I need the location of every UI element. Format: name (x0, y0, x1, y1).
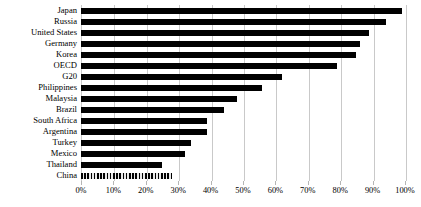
category-label: Brazil (0, 105, 77, 114)
value-axis-tick-label: 90% (365, 186, 380, 196)
category-label: Malaysia (0, 94, 77, 103)
bar (81, 19, 386, 25)
gridline (406, 5, 407, 181)
value-axis-tick-label: 20% (138, 186, 153, 196)
axis-tick (211, 181, 212, 185)
category-label: United States (0, 28, 77, 37)
bar (81, 140, 191, 146)
category-label: Germany (0, 39, 77, 48)
category-label: G20 (0, 72, 77, 81)
axis-tick (405, 181, 406, 185)
category-label: Russia (0, 17, 77, 26)
value-axis-tick-label: 70% (300, 186, 315, 196)
axis-tick (308, 181, 309, 185)
category-label: Korea (0, 50, 77, 59)
category-label: Philippines (0, 83, 77, 92)
value-axis-tick-label: 30% (171, 186, 186, 196)
bar-series (81, 5, 405, 181)
axis-tick (275, 181, 276, 185)
bar (81, 74, 282, 80)
bar (81, 52, 356, 58)
bar-chart: JapanRussiaUnited StatesGermanyKoreaOECD… (0, 0, 421, 207)
axis-tick (373, 181, 374, 185)
value-axis-tick-label: 60% (268, 186, 283, 196)
category-label: Japan (0, 6, 77, 15)
bar (81, 162, 162, 168)
bar (81, 118, 207, 124)
value-axis-tick-label: 0% (75, 186, 86, 196)
category-label: Mexico (0, 149, 77, 158)
bar (81, 107, 224, 113)
bar (81, 41, 360, 47)
category-label: Turkey (0, 138, 77, 147)
category-axis-labels: JapanRussiaUnited StatesGermanyKoreaOECD… (0, 5, 77, 181)
value-axis-tick-label: 40% (203, 186, 218, 196)
value-axis-tick-label: 80% (333, 186, 348, 196)
bar (81, 8, 402, 14)
category-label: South Africa (0, 116, 77, 125)
axis-tick (146, 181, 147, 185)
value-axis-labels: 0%10%20%30%40%50%60%70%80%90%100% (0, 186, 421, 202)
bar (81, 85, 262, 91)
category-label: China (0, 171, 77, 180)
axis-tick (340, 181, 341, 185)
value-axis-tick-label: 100% (395, 186, 415, 196)
value-axis-tick-label: 10% (106, 186, 121, 196)
bar (81, 63, 337, 69)
value-axis-tick-label: 50% (235, 186, 250, 196)
bar (81, 30, 369, 36)
axis-tick (178, 181, 179, 185)
axis-tick (81, 181, 82, 185)
axis-tick (113, 181, 114, 185)
category-label: Argentina (0, 127, 77, 136)
axis-tick (243, 181, 244, 185)
bar (81, 173, 172, 179)
category-label: OECD (0, 61, 77, 70)
bar (81, 151, 185, 157)
bar (81, 129, 207, 135)
bar (81, 96, 237, 102)
category-label: Thailand (0, 160, 77, 169)
